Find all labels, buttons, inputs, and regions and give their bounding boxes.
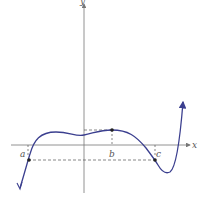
y-axis-label: y xyxy=(79,0,86,6)
label-a: a xyxy=(20,149,25,159)
label-c: c xyxy=(156,149,161,159)
point-b xyxy=(110,128,114,132)
label-b: b xyxy=(109,149,115,159)
function-graph: x y a b c xyxy=(0,0,204,199)
x-axis-label: x xyxy=(192,140,197,150)
left-arrow xyxy=(17,182,22,189)
point-a xyxy=(27,158,31,162)
